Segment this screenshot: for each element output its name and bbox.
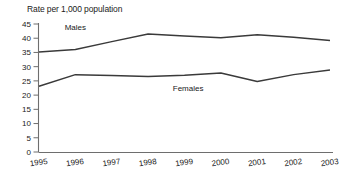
- y-tick-labels: 454035302520151050: [22, 20, 31, 157]
- x-tick-label: 1998: [138, 157, 157, 168]
- y-tick-label: 25: [22, 77, 31, 86]
- series-annotation-males: Males: [65, 23, 86, 32]
- y-tick-label: 35: [22, 48, 31, 57]
- x-tick-label: 1996: [66, 157, 85, 168]
- y-tick-label: 5: [27, 134, 32, 143]
- y-axis-group: 454035302520151050: [22, 20, 38, 157]
- chart-plot-area: 454035302520151050 199519961997199819992…: [0, 0, 341, 173]
- y-tick-label: 20: [22, 91, 31, 100]
- x-tick-label: 1997: [102, 157, 121, 168]
- series-annotation-females: Females: [173, 84, 204, 93]
- x-tick-label: 2001: [247, 157, 266, 168]
- x-tick-label: 2002: [284, 157, 303, 168]
- line-chart: Rate per 1,000 population 45403530252015…: [0, 0, 341, 173]
- y-tick-label: 45: [22, 20, 31, 29]
- x-tick-labels: 199519961997199819992000200120022003: [29, 157, 339, 168]
- x-tick-label: 1995: [29, 157, 48, 168]
- y-tick-marks: [34, 24, 39, 152]
- y-tick-label: 10: [22, 119, 31, 128]
- series-annotations: MalesFemales: [65, 23, 204, 93]
- series-lines: [39, 34, 330, 86]
- y-tick-label: 30: [22, 63, 31, 72]
- y-tick-label: 15: [22, 105, 31, 114]
- x-tick-label: 1999: [175, 157, 194, 168]
- y-tick-label: 0: [27, 148, 32, 157]
- y-tick-label: 40: [22, 34, 31, 43]
- x-tick-label: 2000: [211, 157, 230, 168]
- x-axis-group: 199519961997199819992000200120022003: [29, 153, 339, 169]
- x-tick-label: 2003: [320, 157, 339, 168]
- series-line-males: [39, 34, 330, 52]
